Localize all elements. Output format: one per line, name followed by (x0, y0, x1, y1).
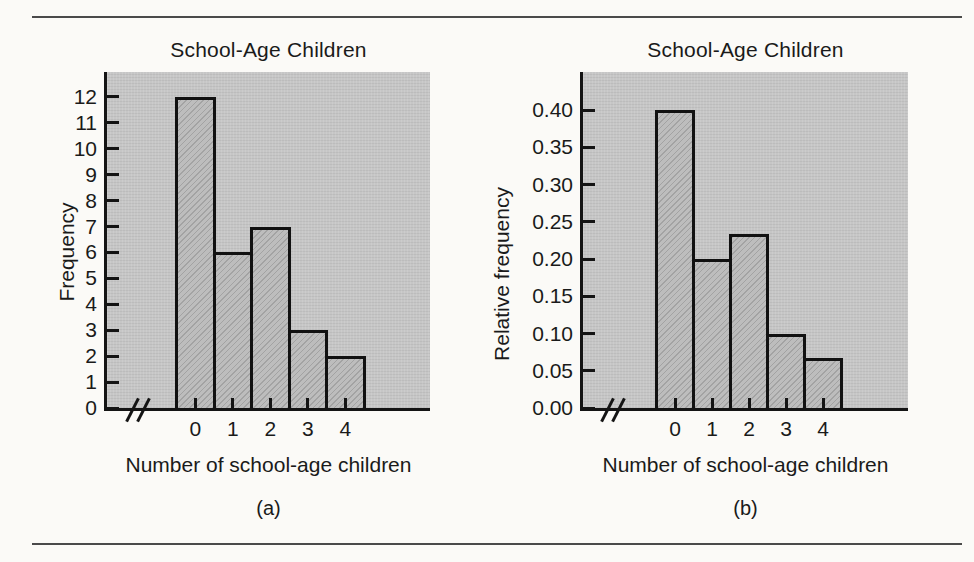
y-tick-mark (107, 355, 119, 358)
x-tick-label: 4 (801, 417, 845, 441)
y-tick-mark (583, 369, 595, 372)
y-tick-label: 0.00 (499, 395, 573, 421)
y-tick-mark (107, 147, 119, 150)
y-tick-mark (583, 258, 595, 261)
y-tick-mark (107, 381, 119, 384)
figure-canvas: School-Age Children012345678910111201234… (0, 0, 974, 562)
x-tick-mark (344, 398, 347, 408)
x-tick-mark (711, 398, 714, 408)
y-tick-mark (583, 183, 595, 186)
y-tick-label: 0.35 (499, 134, 573, 160)
x-tick-mark (674, 398, 677, 408)
histogram-bar (729, 234, 769, 411)
y-tick-mark (107, 225, 119, 228)
y-tick-mark (583, 146, 595, 149)
y-tick-mark (107, 95, 119, 98)
y-tick-mark (107, 121, 119, 124)
y-tick-mark (107, 329, 119, 332)
histogram-bar (175, 97, 216, 411)
y-tick-mark (107, 277, 119, 280)
histogram-panel-relative-frequency: School-Age Children0.000.050.100.150.200… (0, 0, 974, 562)
y-tick-mark (583, 295, 595, 298)
y-tick-mark (583, 407, 595, 410)
panel-label: (b) (583, 497, 908, 520)
x-tick-mark (785, 398, 788, 408)
y-axis-line (580, 72, 583, 411)
histogram-bar (692, 259, 732, 411)
histogram-bar (250, 227, 291, 411)
x-axis-title: Number of school-age children (553, 453, 938, 477)
chart-title: School-Age Children (563, 38, 928, 62)
y-tick-mark (107, 251, 119, 254)
x-tick-mark (231, 398, 234, 408)
y-tick-mark (583, 109, 595, 112)
x-tick-mark (194, 398, 197, 408)
y-axis-title: Relative frequency (490, 187, 514, 361)
x-axis-line (104, 408, 430, 411)
x-tick-mark (269, 398, 272, 408)
y-tick-mark (107, 199, 119, 202)
y-tick-mark (107, 173, 119, 176)
y-tick-label: 0.05 (499, 358, 573, 384)
y-tick-label: 0.40 (499, 97, 573, 123)
y-tick-mark (107, 303, 119, 306)
y-tick-mark (107, 407, 119, 410)
histogram-bar (655, 110, 695, 411)
x-tick-mark (822, 398, 825, 408)
y-tick-mark (583, 220, 595, 223)
x-tick-mark (306, 398, 309, 408)
x-tick-mark (748, 398, 751, 408)
x-axis-line (580, 408, 908, 411)
histogram-bar (213, 252, 254, 411)
y-tick-mark (583, 332, 595, 335)
